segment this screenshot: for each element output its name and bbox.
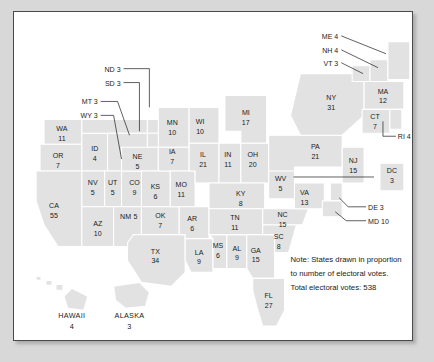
callout-label-nh: NH 4 — [322, 47, 338, 54]
callout-label-me: ME 4 — [322, 33, 339, 40]
state-shape-hawaii-chain-3 — [56, 284, 63, 290]
note-line-1: Note: States drawn in proportion — [291, 255, 402, 264]
insets-layer: HAWAII 4 ALASKA 3 — [58, 311, 144, 331]
state-label-ky: KY — [236, 190, 246, 197]
state-label-fl: FL — [265, 292, 273, 299]
callout-label-md: MD 10 — [368, 218, 389, 225]
state-label-id: ID — [91, 145, 98, 152]
state-label-tx: TX — [151, 248, 160, 255]
state-votes-az: 10 — [94, 230, 102, 237]
state-shape-hawaii-chain-2 — [46, 280, 52, 285]
state-shape-ri — [390, 109, 402, 129]
state-shape-ar — [179, 207, 209, 239]
leader-line-me — [341, 36, 386, 54]
state-votes-fl: 27 — [265, 302, 273, 309]
leader-line-de — [339, 198, 366, 207]
state-votes-ar: 6 — [190, 225, 194, 232]
state-label-az: AZ — [93, 220, 103, 227]
state-votes-mi: 17 — [242, 119, 250, 126]
state-label-nm: NM — [120, 213, 131, 220]
state-shape-ma — [364, 82, 404, 110]
state-votes-il: 21 — [199, 161, 207, 168]
state-shape-mn — [158, 107, 189, 147]
state-votes-ma: 12 — [379, 97, 387, 104]
state-votes-in: 11 — [224, 161, 231, 168]
state-votes-wa: 11 — [58, 135, 65, 142]
state-votes-ct: 7 — [373, 123, 377, 130]
callout-label-vt: VT 3 — [323, 60, 338, 67]
state-votes-ks: 6 — [153, 193, 157, 200]
state-votes-mn: 10 — [168, 129, 176, 136]
state-shape-de — [330, 183, 342, 201]
state-shape-nj — [342, 147, 364, 183]
state-votes-oh: 20 — [249, 161, 257, 168]
state-label-wv: WV — [275, 175, 287, 182]
state-label-ca: CA — [49, 202, 59, 209]
state-label-ny: NY — [326, 94, 336, 101]
state-label-ms: MS — [213, 242, 224, 249]
state-label-nc: NC — [277, 211, 287, 218]
state-label-co: CO — [129, 179, 140, 186]
state-shape-vt — [352, 66, 370, 82]
inset-label-hawaii: HAWAII — [58, 311, 85, 320]
state-votes-or: 7 — [56, 162, 60, 169]
state-votes-ky: 8 — [239, 200, 243, 207]
callout-label-ri: RI 4 — [398, 133, 411, 140]
state-votes-ia: 7 — [170, 158, 174, 165]
callout-label-mt: MT 3 — [82, 98, 98, 105]
state-votes-nv: 5 — [91, 189, 95, 196]
state-label-mo: MO — [176, 181, 188, 188]
state-votes-id: 4 — [93, 155, 97, 162]
state-label-mn: MN — [167, 119, 178, 126]
callout-label-wy: WY 3 — [81, 112, 98, 119]
callout-votes-dc: 3 — [390, 177, 394, 184]
state-label-la: LA — [195, 249, 204, 256]
state-shape-me — [388, 42, 410, 80]
state-votes-wi: 10 — [196, 128, 204, 135]
state-label-va: VA — [300, 189, 309, 196]
state-shape-hawaii — [64, 288, 88, 310]
state-shape-ca — [36, 171, 82, 247]
state-label-il: IL — [200, 151, 206, 158]
state-label-nv: NV — [88, 179, 98, 186]
state-label-ne: NE — [133, 153, 143, 160]
state-label-or: OR — [53, 152, 64, 159]
state-votes-ok: 7 — [158, 222, 162, 229]
state-votes-ca: 55 — [50, 212, 58, 219]
state-label-ct: CT — [370, 113, 380, 120]
state-label-nj: NJ — [349, 157, 358, 164]
state-label-group: NM5 — [120, 213, 137, 220]
state-votes-nc: 15 — [279, 221, 287, 228]
state-shape-mo — [170, 171, 195, 207]
state-label-tn: TN — [230, 214, 239, 221]
electoral-map-svg: WA11 OR7 CA55 NV5 UT5 ID4 AZ10 NM5 CO9 N… — [14, 12, 412, 340]
state-label-ia: IA — [169, 148, 176, 155]
state-label-ks: KS — [151, 183, 161, 190]
inset-votes-hawaii: 4 — [70, 322, 74, 331]
state-label-ar: AR — [187, 215, 197, 222]
note-line-3: Total electoral votes: 538 — [291, 283, 377, 292]
leader-line-nd — [124, 69, 150, 108]
callout-label-nd: ND 3 — [105, 66, 121, 73]
state-shape-nh — [370, 60, 388, 82]
state-shape-wv — [269, 167, 295, 199]
state-label-ok: OK — [155, 212, 165, 219]
inset-label-alaska: ALASKA — [115, 311, 145, 320]
state-label-pa: PA — [311, 143, 320, 150]
state-label-ut: UT — [108, 179, 118, 186]
state-votes-va: 13 — [301, 199, 309, 206]
inset-votes-alaska: 3 — [127, 322, 131, 331]
state-votes-al: 9 — [235, 254, 239, 261]
note-line-2: to number of electoral votes. — [291, 269, 389, 278]
electoral-map-figure: WA11 OR7 CA55 NV5 UT5 ID4 AZ10 NM5 CO9 N… — [13, 11, 413, 341]
state-shape-va — [295, 183, 325, 209]
leader-line-nh — [341, 50, 378, 68]
state-shape-pa — [269, 135, 343, 171]
state-votes-ms: 6 — [216, 252, 220, 259]
state-votes-ut: 5 — [111, 189, 115, 196]
state-label-wi: WI — [196, 118, 205, 125]
state-votes-ne: 5 — [135, 163, 139, 170]
state-votes-tx: 34 — [151, 257, 159, 264]
state-label-mi: MI — [242, 109, 250, 116]
state-votes-pa: 21 — [311, 153, 319, 160]
